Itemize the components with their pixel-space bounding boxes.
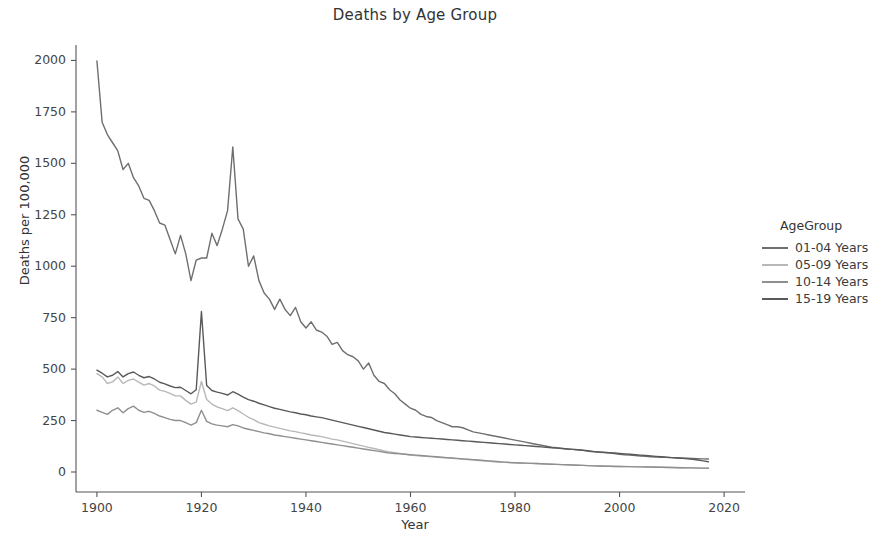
legend-item-label: 10-14 Years — [795, 274, 868, 289]
legend-swatch-icon — [762, 298, 788, 300]
legend-item-label: 05-09 Years — [795, 257, 868, 272]
legend-item-10-14-years[interactable]: 10-14 Years — [762, 273, 882, 290]
legend-items: 01-04 Years05-09 Years10-14 Years15-19 Y… — [762, 239, 882, 307]
legend-item-01-04-years[interactable]: 01-04 Years — [762, 239, 882, 256]
x-tick-label-1960: 1960 — [381, 500, 441, 515]
y-tick-label-250: 250 — [16, 413, 66, 428]
x-tick-label-2000: 2000 — [590, 500, 650, 515]
y-axis-label: Deaths per 100,000 — [17, 31, 32, 411]
x-tick-label-1920: 1920 — [171, 500, 231, 515]
legend-swatch-icon — [762, 264, 788, 266]
legend: AgeGroup 01-04 Years05-09 Years10-14 Yea… — [762, 218, 882, 307]
legend-item-label: 01-04 Years — [795, 240, 868, 255]
series-line-10-14-years — [97, 406, 709, 468]
x-tick-label-1940: 1940 — [276, 500, 336, 515]
axis-spines — [76, 45, 745, 492]
x-tick-label-1980: 1980 — [485, 500, 545, 515]
axis-ticks — [71, 60, 724, 497]
x-tick-label-2020: 2020 — [694, 500, 754, 515]
series-line-15-19-years — [97, 311, 709, 461]
legend-swatch-icon — [762, 281, 788, 283]
chart-svg — [0, 0, 882, 536]
legend-swatch-icon — [762, 247, 788, 249]
legend-item-05-09-years[interactable]: 05-09 Years — [762, 256, 882, 273]
x-tick-label-1900: 1900 — [67, 500, 127, 515]
data-series-group — [97, 61, 709, 468]
x-axis-label: Year — [0, 517, 830, 532]
legend-title: AgeGroup — [780, 218, 882, 233]
series-line-01-04-years — [97, 61, 709, 459]
y-tick-label-0: 0 — [16, 464, 66, 479]
legend-item-label: 15-19 Years — [795, 291, 868, 306]
chart-canvas: Deaths by Age Group 02505007501000125015… — [0, 0, 882, 536]
legend-item-15-19-years[interactable]: 15-19 Years — [762, 290, 882, 307]
